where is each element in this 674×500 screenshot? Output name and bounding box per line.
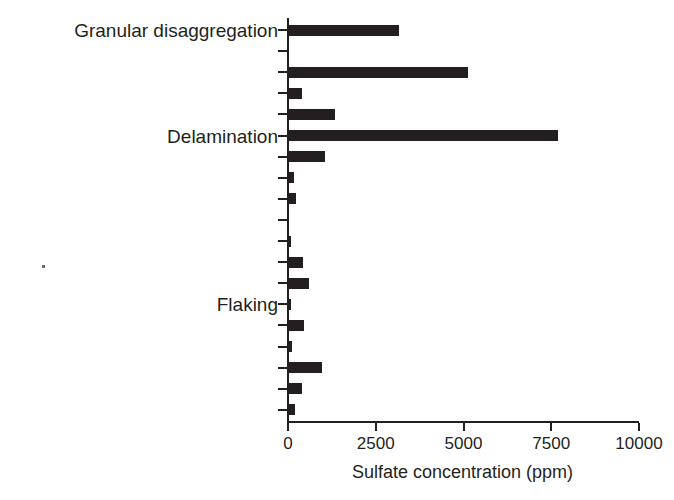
- bar: [288, 151, 325, 162]
- y-axis-tick: [278, 156, 287, 158]
- bar: [288, 404, 295, 415]
- x-axis-tick-label: 7500: [532, 434, 570, 454]
- y-axis-tick: [278, 198, 287, 200]
- bar: [288, 172, 294, 183]
- bar: [288, 299, 291, 310]
- category-label: Granular disaggregation: [0, 20, 278, 41]
- y-axis-tick: [278, 324, 287, 326]
- y-axis-tick: [278, 282, 287, 284]
- bar-chart-figure: Granular disaggregationDelaminationFlaki…: [0, 0, 674, 500]
- x-axis-tick-label: 10000: [615, 434, 662, 454]
- y-axis-tick: [278, 113, 287, 115]
- y-axis-tick: [278, 240, 287, 242]
- y-axis-tick: [278, 261, 287, 263]
- bar: [288, 257, 303, 268]
- y-axis-tick: [278, 409, 287, 411]
- y-axis-tick: [278, 135, 287, 137]
- y-axis-tick: [278, 219, 287, 221]
- y-axis-tick: [278, 29, 287, 31]
- x-axis-tick: [463, 423, 465, 431]
- x-axis-tick-label: 2500: [357, 434, 395, 454]
- y-axis-tick: [278, 367, 287, 369]
- x-axis-tick-label: 0: [283, 434, 292, 454]
- x-axis-tick: [550, 423, 552, 431]
- bar: [288, 88, 302, 99]
- y-axis-tick: [278, 388, 287, 390]
- x-axis-tick: [287, 423, 289, 431]
- image-speck: [42, 265, 45, 268]
- x-axis-title: Sulfate concentration (ppm): [287, 462, 638, 483]
- bar: [288, 383, 302, 394]
- category-label: Delamination: [0, 125, 278, 146]
- bar: [288, 320, 304, 331]
- bar: [288, 193, 296, 204]
- x-axis-tick: [375, 423, 377, 431]
- y-axis-tick: [278, 346, 287, 348]
- y-axis-tick: [278, 303, 287, 305]
- y-axis-tick: [278, 92, 287, 94]
- bar: [288, 67, 468, 78]
- bar: [288, 236, 291, 247]
- bar: [288, 109, 335, 120]
- category-label: Flaking: [0, 294, 278, 315]
- bar: [288, 341, 292, 352]
- x-axis-tick: [638, 423, 640, 431]
- y-axis-tick: [278, 177, 287, 179]
- y-axis-tick: [278, 50, 287, 52]
- bar: [288, 362, 322, 373]
- plot-area: [287, 12, 638, 422]
- bar: [288, 130, 558, 141]
- bar: [288, 278, 309, 289]
- y-axis-tick: [278, 71, 287, 73]
- bar: [288, 25, 399, 36]
- x-axis-tick-label: 5000: [445, 434, 483, 454]
